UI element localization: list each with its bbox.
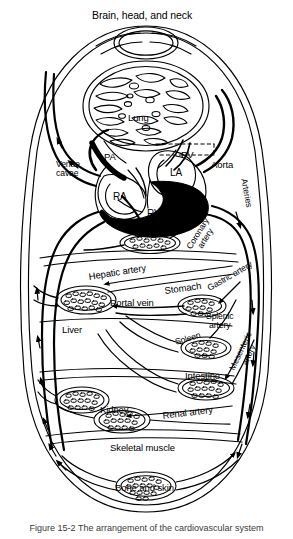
splenic-line2: artery [209, 320, 230, 330]
label-intestine: Intestine [185, 371, 220, 381]
label-splenic-artery: Splenic artery [206, 312, 234, 330]
label-portal-vein: Portal vein [110, 298, 154, 308]
label-brain-head-neck: Brain, head, and neck [92, 10, 192, 21]
label-left-atrium: LA [170, 168, 182, 178]
label-venae-cavae-line2: cavae [56, 169, 78, 178]
label-skeletal-muscle: Skeletal muscle [110, 443, 175, 453]
label-left-ventricle: LV [176, 196, 187, 206]
label-right-atrium: RA [113, 192, 127, 202]
label-bone-and-skin: Bone and skin [115, 483, 174, 493]
label-liver: Liver [62, 325, 82, 335]
figure-caption: Figure 15-2 The arrangement of the cardi… [0, 523, 293, 539]
label-kidney: Kidney [100, 405, 128, 415]
label-pulmonary-artery: PA [104, 152, 116, 162]
label-aorta: Aorta [211, 160, 233, 170]
label-lung: Lung [128, 113, 149, 123]
label-right-ventricle: RV [147, 209, 161, 219]
circulatory-system-figure: Brain, head, and neck Lung PA PV Aorta V… [0, 0, 293, 539]
label-pulmonary-vein: PV [181, 150, 193, 160]
